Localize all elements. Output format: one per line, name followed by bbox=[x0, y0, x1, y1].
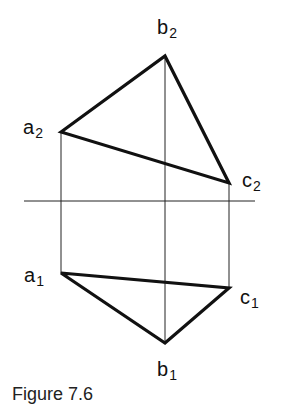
triangle-view-2 bbox=[61, 56, 229, 183]
label-b2: b2 bbox=[157, 17, 177, 40]
label-a2: a2 bbox=[23, 117, 43, 140]
label-a1: a1 bbox=[24, 265, 44, 288]
figure-caption: Figure 7.6 bbox=[12, 384, 93, 405]
triangle-view-1 bbox=[61, 273, 229, 343]
label-b1: b1 bbox=[157, 359, 177, 382]
label-c2: c2 bbox=[242, 170, 261, 193]
label-c1: c1 bbox=[240, 287, 259, 310]
